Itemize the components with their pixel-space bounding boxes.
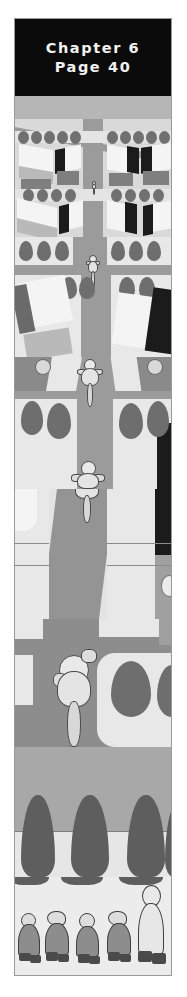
pedestrian-adult-1-leg-back [152, 953, 166, 964]
hedge-tree-9 [146, 131, 157, 144]
rider-4-lower [67, 489, 107, 523]
pedestrian-child-3-leg-back [89, 956, 100, 964]
scene-cone-trees [15, 747, 171, 877]
house-shadow-4 [141, 146, 152, 174]
hedge-tree-2 [31, 131, 42, 144]
hedge-tree-16 [125, 189, 136, 202]
pedestrian-adult-1 [135, 885, 171, 969]
near-kerb-line-4 [107, 565, 171, 566]
hedge-tree-1 [18, 131, 29, 144]
pedestrian-child-2 [43, 911, 73, 967]
hedge-tree-10 [159, 131, 170, 144]
scene-cyclist-near [15, 489, 171, 619]
pedestrian-child-4-leg-front [108, 952, 120, 961]
mid-circle-right [147, 359, 163, 375]
pedestrian-adult-1-body [138, 903, 164, 955]
tree-dist-4 [111, 241, 125, 261]
cone-tree-7 [119, 877, 163, 885]
chapter-banner: Chapter 6 Page 40 [15, 19, 171, 96]
scene-rooftops [15, 119, 171, 237]
house-wall-3 [109, 173, 133, 186]
near-circle-right [161, 575, 171, 597]
hedge-tree-4 [57, 131, 68, 144]
pedestrian-child-3 [75, 913, 103, 967]
close-lot-top-far [159, 619, 171, 645]
pedestrian-child-1-leg-back [30, 955, 41, 963]
near-shadow-right [155, 489, 171, 555]
pedestrian-adult-1-leg-front [138, 951, 152, 962]
hedge-tree-18 [153, 189, 164, 202]
close-lot-top-right [99, 619, 159, 637]
rider-5 [53, 649, 99, 747]
rider-5-arm-right [81, 649, 97, 663]
pedestrian-child-2-body [45, 923, 69, 955]
hedge-tree-8 [133, 131, 144, 144]
house-shadow-6 [59, 204, 69, 234]
close-lot-left-2 [15, 655, 33, 705]
scene-cyclist-mid [15, 357, 171, 489]
tree-dist-5 [129, 241, 143, 261]
pedestrian-child-4-leg-back [120, 954, 131, 962]
house-wall-2 [57, 171, 79, 185]
rider-3 [77, 359, 103, 407]
book-page: Chapter 6 Page 40 [0, 0, 187, 997]
pedestrian-child-2-leg-back [58, 954, 69, 962]
tree-mid-2 [47, 403, 71, 439]
mid-drive-right [111, 357, 142, 391]
pedestrian-child-1-body [18, 924, 40, 956]
house-shadow-7 [125, 202, 137, 235]
tree-dist-3 [55, 241, 69, 261]
pedestrian-child-1 [17, 913, 43, 967]
pedestrian-child-2-leg-front [46, 952, 58, 961]
cone-tree-5 [15, 877, 49, 885]
scene-pedestrians [15, 877, 171, 976]
rider-4-torso [77, 473, 99, 489]
rider-4 [71, 461, 105, 489]
near-house-left [15, 489, 37, 531]
hedge-tree-6 [107, 131, 118, 144]
scene-cyclist-close [15, 619, 171, 747]
hedge-tree-15 [111, 189, 122, 202]
pedestrian-child-3-body [76, 926, 99, 957]
mid-circle-left [35, 359, 51, 375]
tree-dist-2 [37, 241, 51, 261]
rider-1-bike [93, 188, 95, 195]
cone-tree-3 [127, 795, 165, 877]
rider-5-bike [67, 701, 81, 747]
hedge-tree-13 [51, 189, 62, 202]
house-shadow-3 [127, 146, 139, 174]
pedestrian-child-4 [105, 911, 135, 967]
near-kerb-line-3 [15, 565, 49, 566]
pedestrian-child-4-body [107, 923, 131, 955]
cone-tree-6 [61, 877, 103, 885]
house-wall-4 [143, 171, 169, 185]
near-kerb-line-1 [15, 543, 49, 544]
hedge-tree-14 [65, 189, 76, 202]
scene-cyclist-distant [15, 237, 171, 357]
hedge-tree-12 [37, 189, 48, 202]
cone-tree-4 [165, 803, 171, 877]
cone-tree-1 [21, 795, 55, 877]
hedge-tree-7 [120, 131, 131, 144]
rider-1 [91, 181, 97, 195]
rider-4-bike [83, 495, 91, 523]
hedge-tree-5 [70, 131, 81, 144]
hedge-tree-17 [139, 189, 150, 202]
tree-mid-1 [21, 401, 43, 435]
cone-tree-2 [71, 795, 109, 877]
illustration-plate: Chapter 6 Page 40 [14, 18, 172, 976]
tree-mid-3 [119, 403, 143, 439]
chapter-label: Chapter 6 [46, 39, 141, 58]
page-label: Page 40 [55, 58, 132, 77]
hedge-tree-3 [44, 131, 55, 144]
tree-dist-8 [79, 277, 95, 299]
tree-mid-4 [147, 401, 169, 437]
tree-dist-6 [147, 241, 161, 261]
near-kerb-line-2 [107, 543, 171, 544]
house-shadow-8 [143, 204, 153, 236]
rider-3-bike [87, 383, 93, 407]
close-lot-top-left [15, 619, 43, 639]
tree-dist-1 [19, 241, 33, 261]
